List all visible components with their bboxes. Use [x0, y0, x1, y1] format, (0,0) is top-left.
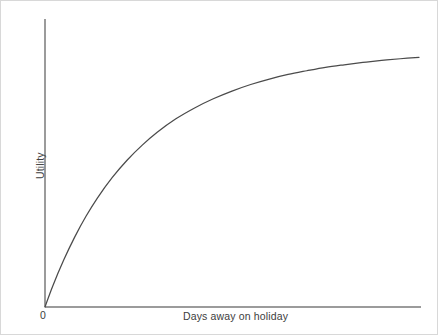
chart-screenshot: Utility Days away on holiday 0 [0, 0, 438, 335]
utility-curve [45, 57, 419, 307]
origin-tick-label: 0 [40, 309, 46, 321]
utility-chart-figure: Utility Days away on holiday 0 [1, 1, 437, 334]
x-axis-label: Days away on holiday [179, 310, 292, 322]
y-axis-label: Utility [34, 152, 46, 179]
chart-plot-area [1, 1, 438, 335]
